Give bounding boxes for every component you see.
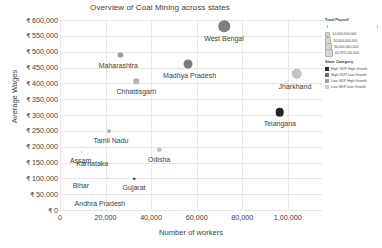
category-legend-item[interactable]: Low GDP-Low Growth <box>325 84 382 89</box>
size-legend-items: 10,000,000,00020,000,000,00030,000,000,0… <box>325 32 382 56</box>
category-legend-item[interactable]: High GDP-High Growth <box>325 66 382 71</box>
y-tick-label: ₹ 100,000 <box>0 174 58 183</box>
bubble-label: Jharkhand <box>279 83 312 90</box>
bubble-label: Karnataka <box>76 160 108 167</box>
y-tick-label: ₹ 550,000 <box>0 31 58 40</box>
gridline-vertical <box>60 20 61 210</box>
y-tick-label: ₹ 50,000 <box>0 190 58 199</box>
category-legend-label: Low GDP-High Growth <box>331 79 367 83</box>
category-legend-title: State Category <box>325 60 382 65</box>
category-legend-swatch <box>325 73 329 77</box>
data-bubble[interactable] <box>218 21 230 33</box>
bubble-label: Odisha <box>148 156 170 163</box>
gridline-horizontal <box>60 147 322 148</box>
x-axis-label: Number of workers <box>60 228 322 237</box>
category-legend-label: High GDP-High Growth <box>331 67 367 71</box>
y-tick-label: ₹ 200,000 <box>0 142 58 151</box>
bubble-label: West Bengal <box>204 35 244 42</box>
data-bubble[interactable] <box>134 78 140 84</box>
bubble-label: Maharashtra <box>99 62 138 69</box>
size-legend-value: 44,193,500,000 <box>335 51 359 55</box>
bubble-label: Tamil Nadu <box>93 137 128 144</box>
category-legend-swatch <box>325 85 329 89</box>
gridline-vertical <box>288 20 289 210</box>
size-legend-item: 44,193,500,000 <box>325 50 382 56</box>
x-tick-label: 1,00,000 <box>258 213 318 222</box>
gridline-horizontal <box>60 194 322 195</box>
gridline-horizontal <box>60 131 322 132</box>
category-legend-label: High GDP-Low Growth <box>331 73 367 77</box>
bubble-label: Madhya Pradesh <box>163 72 216 79</box>
size-legend-scale <box>325 25 382 31</box>
gridline-vertical <box>242 20 243 210</box>
data-bubble[interactable] <box>91 195 92 196</box>
gridline-vertical <box>151 20 152 210</box>
category-legend-item[interactable]: Low GDP-High Growth <box>325 78 382 83</box>
size-legend-value: 20,000,000,000 <box>333 39 357 43</box>
data-bubble[interactable] <box>107 177 109 179</box>
size-legend-item: 30,000,000,000 <box>325 44 382 50</box>
gridline-horizontal <box>60 36 322 37</box>
gridline-horizontal <box>60 52 322 53</box>
y-tick-label: ₹ 150,000 <box>0 158 58 167</box>
size-legend-title: Total Payroll <box>325 18 382 23</box>
size-legend-swatch <box>325 32 330 37</box>
y-tick-label: ₹ 600,000 <box>0 16 58 25</box>
y-tick-label: ₹ 400,000 <box>0 79 58 88</box>
data-bubble[interactable] <box>157 148 162 153</box>
category-legend-swatch <box>325 67 329 71</box>
y-tick-label: ₹ 350,000 <box>0 95 58 104</box>
size-legend-item: 20,000,000,000 <box>325 38 382 44</box>
bubble-label: Bihar <box>73 182 89 189</box>
bubble-chart-root: Overview of Coal Mining across states Av… <box>0 0 382 248</box>
size-legend-item: 10,000,000,000 <box>325 32 382 38</box>
data-bubble[interactable] <box>118 52 123 57</box>
size-legend-value: 30,000,000,000 <box>334 45 358 49</box>
category-legend-items: High GDP-High GrowthHigh GDP-Low GrowthL… <box>325 66 382 90</box>
gridline-horizontal <box>60 20 322 21</box>
y-tick-label: ₹ 500,000 <box>0 47 58 56</box>
y-tick-label: ₹ 300,000 <box>0 111 58 120</box>
plot-area: West BengalMaharashtraMadhya PradeshJhar… <box>60 20 322 210</box>
bubble-label: Chhattisgarh <box>116 88 156 95</box>
gridline-vertical <box>197 20 198 210</box>
category-legend-swatch <box>325 79 329 83</box>
gridline-horizontal <box>60 178 322 179</box>
gridline-vertical <box>106 20 107 210</box>
chart-legend: Total Payroll 10,000,000,00020,000,000,0… <box>325 18 382 90</box>
bubble-label: Gujarat <box>123 184 146 191</box>
gridline-horizontal <box>60 99 322 100</box>
category-legend-item[interactable]: High GDP-Low Growth <box>325 72 382 77</box>
bubble-label: Telangana <box>264 120 296 127</box>
data-bubble[interactable] <box>107 129 111 133</box>
size-legend-swatch <box>325 49 333 57</box>
bubble-label: Andhra Pradesh <box>75 200 126 207</box>
data-bubble[interactable] <box>133 177 136 180</box>
data-bubble[interactable] <box>292 69 303 80</box>
data-bubble[interactable] <box>276 108 285 117</box>
data-bubble[interactable] <box>81 151 83 153</box>
chart-title: Overview of Coal Mining across states <box>0 3 320 12</box>
y-tick-label: ₹ 450,000 <box>0 63 58 72</box>
size-legend-value: 10,000,000,000 <box>332 32 356 36</box>
y-tick-label: ₹ 250,000 <box>0 126 58 135</box>
data-bubble[interactable] <box>183 59 192 68</box>
category-legend-label: Low GDP-Low Growth <box>331 85 366 89</box>
gridline-horizontal <box>60 210 322 211</box>
